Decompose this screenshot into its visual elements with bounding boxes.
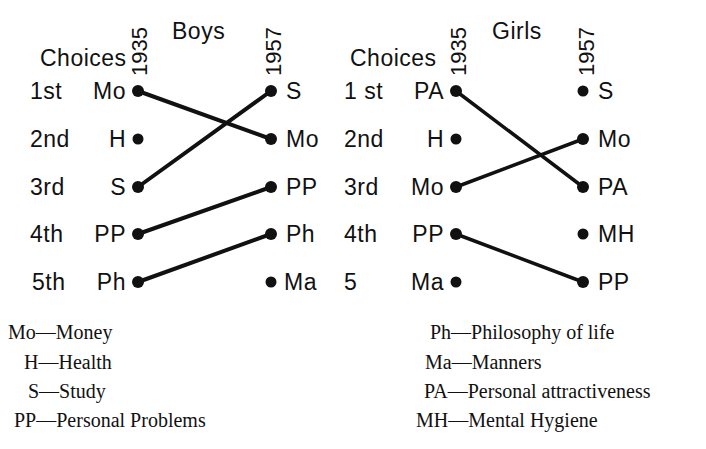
- legend-item-ph: Ph—Philosophy of life: [430, 322, 614, 342]
- boys-connection-lines: [138, 91, 271, 282]
- boys-year-1935: 1935: [127, 27, 153, 76]
- boys-1957-item-1: S: [286, 80, 302, 103]
- boys-1935-item-1: Mo: [93, 80, 126, 103]
- boys-line-ph: [138, 234, 271, 282]
- boys-year-1957: 1957: [261, 27, 287, 76]
- boys-dot-1957-3: [265, 181, 277, 193]
- girls-dot-1957-5: [577, 276, 589, 288]
- boys-line-mo: [138, 91, 271, 139]
- legend-item-ma: Ma—Manners: [425, 352, 542, 372]
- boys-1935-item-3: S: [110, 176, 126, 199]
- girls-rank-1: 1 st: [344, 80, 383, 103]
- girls-dot-1935-5: [451, 277, 462, 288]
- girls-title: Girls: [492, 20, 542, 43]
- girls-1957-item-1: S: [598, 80, 614, 103]
- girls-rank-2: 2nd: [344, 128, 384, 151]
- girls-dot-1935-4: [450, 228, 462, 240]
- girls-dot-1957-4: [578, 229, 589, 240]
- legend-item-mh: MH—Mental Hygiene: [416, 410, 598, 430]
- girls-dot-1957-1: [578, 86, 589, 97]
- girls-rank-5: 5: [344, 271, 357, 294]
- girls-1957-item-4: MH: [598, 223, 635, 246]
- girls-rank-3: 3rd: [344, 176, 379, 199]
- boys-1957-item-4: Ph: [286, 223, 315, 246]
- boys-dot-1935-3: [132, 181, 144, 193]
- girls-dot-1957-3: [577, 181, 589, 193]
- boys-dot-1957-4: [265, 228, 277, 240]
- boys-rank-1: 1st: [30, 80, 62, 103]
- girls-line-pp: [456, 234, 583, 282]
- boys-rank-2: 2nd: [30, 128, 70, 151]
- girls-connection-lines: [456, 91, 583, 282]
- boys-dot-1935-2: [133, 134, 144, 145]
- girls-dot-1957-2: [577, 133, 589, 145]
- legend-item-s: S—Study: [28, 381, 106, 401]
- girls-1957-item-2: Mo: [598, 128, 631, 151]
- boys-1957-item-5: Ma: [284, 271, 317, 294]
- boys-title: Boys: [172, 20, 225, 43]
- boys-rank-3: 3rd: [30, 176, 65, 199]
- girls-choices-header: Choices: [350, 47, 437, 70]
- girls-1935-item-3: Mo: [411, 176, 444, 199]
- girls-1935-item-4: PP: [412, 223, 444, 246]
- girls-1935-item-5: Ma: [411, 271, 444, 294]
- boys-1935-item-5: Ph: [97, 271, 126, 294]
- boys-1935-item-2: H: [109, 128, 126, 151]
- girls-dot-1935-1: [450, 85, 462, 97]
- boys-dot-1935-1: [132, 85, 144, 97]
- legend-item-mo: Mo—Money: [8, 322, 112, 342]
- boys-1935-item-4: PP: [94, 223, 126, 246]
- girls-dot-1935-2: [451, 134, 462, 145]
- legend-item-pp: PP—Personal Problems: [14, 410, 206, 430]
- legend-item-pa: PA—Personal attractiveness: [424, 381, 650, 401]
- boys-dot-1935-4: [132, 228, 144, 240]
- boys-choices-header: Choices: [40, 47, 127, 70]
- girls-line-mo: [456, 139, 583, 187]
- boys-1957-item-3: PP: [286, 176, 318, 199]
- boys-line-s: [138, 91, 271, 187]
- girls-1957-item-5: PP: [598, 271, 630, 294]
- boys-line-pp: [138, 187, 271, 234]
- girls-line-pa: [456, 91, 583, 187]
- boys-rank-5: 5th: [32, 271, 65, 294]
- legend-item-h: H—Health: [24, 352, 112, 372]
- girls-1935-item-2: H: [427, 128, 444, 151]
- girls-year-1935: 1935: [446, 27, 472, 76]
- boys-dot-1957-1: [265, 85, 277, 97]
- girls-rank-4: 4th: [344, 223, 377, 246]
- boys-rank-4: 4th: [30, 223, 63, 246]
- girls-1957-item-3: PA: [598, 176, 628, 199]
- boys-dot-1935-5: [132, 276, 144, 288]
- girls-dot-1935-3: [450, 181, 462, 193]
- girls-1935-item-1: PA: [414, 80, 444, 103]
- boys-1957-item-2: Mo: [286, 128, 319, 151]
- girls-year-1957: 1957: [574, 27, 600, 76]
- boys-dot-1957-2: [265, 133, 277, 145]
- boys-dot-1957-5: [266, 277, 277, 288]
